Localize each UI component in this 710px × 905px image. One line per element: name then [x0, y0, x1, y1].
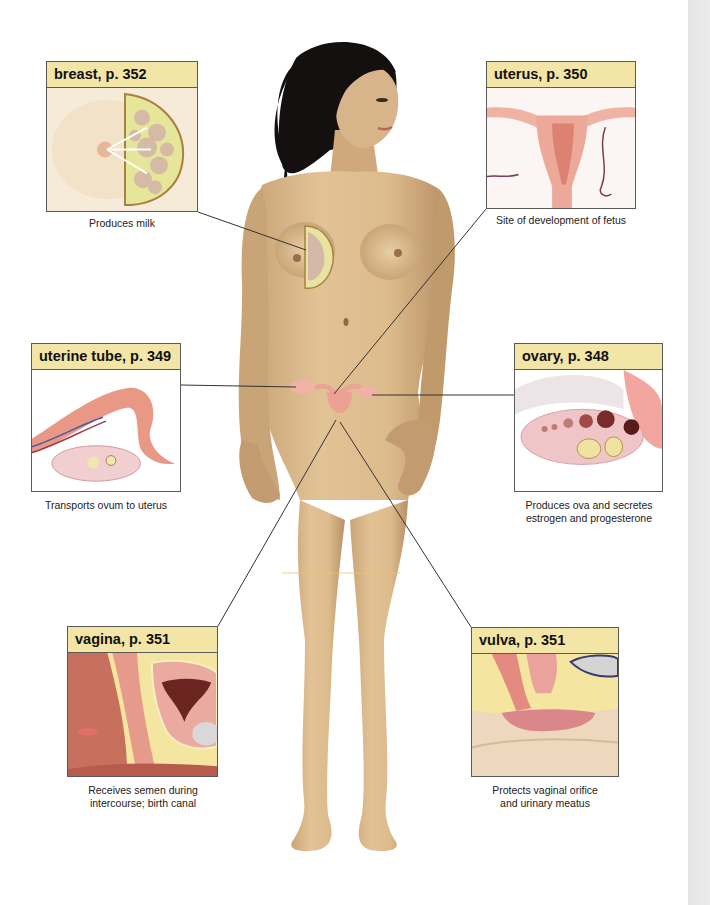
uterus-cross-section-image — [487, 88, 635, 208]
breast-caption-line-1: Produces milk — [46, 217, 198, 230]
uterus-callout: uterus, p. 350 — [486, 61, 636, 209]
breast-callout: breast, p. 352 — [46, 61, 198, 212]
uterine-tube-label: uterine tube, p. 349 — [32, 344, 180, 370]
uterine-tube-image — [32, 370, 180, 491]
vagina-label: vagina, p. 351 — [68, 627, 217, 653]
breast-cross-section-image — [47, 88, 197, 211]
uterine-tube-caption: Transports ovum to uterus — [26, 499, 186, 512]
vulva-cross-section-image — [472, 654, 618, 776]
ovary-caption-line-2: estrogen and progesterone — [500, 512, 678, 525]
ovary-callout: ovary, p. 348 — [514, 343, 663, 492]
vulva-caption-line-2: and urinary meatus — [460, 797, 630, 810]
ovary-caption-line-1: Produces ova and secretes — [500, 499, 678, 512]
uterine-tube-caption-line-1: Transports ovum to uterus — [26, 499, 186, 512]
vagina-caption-line-1: Receives semen during — [57, 784, 229, 797]
uterine-tube-callout: uterine tube, p. 349 — [31, 343, 181, 492]
vagina-caption-line-2: intercourse; birth canal — [57, 797, 229, 810]
vulva-label: vulva, p. 351 — [472, 628, 618, 654]
vagina-caption: Receives semen during intercourse; birth… — [57, 784, 229, 810]
vagina-callout: vagina, p. 351 — [67, 626, 218, 777]
vagina-cross-section-image — [68, 653, 217, 776]
breast-caption: Produces milk — [46, 217, 198, 230]
ovary-cross-section-image — [515, 370, 662, 491]
breast-label: breast, p. 352 — [47, 62, 197, 88]
vulva-callout: vulva, p. 351 — [471, 627, 619, 777]
uterus-label: uterus, p. 350 — [487, 62, 635, 88]
vulva-caption: Protects vaginal orifice and urinary mea… — [460, 784, 630, 810]
uterus-caption-line-1: Site of development of fetus — [475, 214, 647, 227]
ovary-label: ovary, p. 348 — [515, 344, 662, 370]
vulva-caption-line-1: Protects vaginal orifice — [460, 784, 630, 797]
uterus-caption: Site of development of fetus — [475, 214, 647, 227]
ovary-caption: Produces ova and secretes estrogen and p… — [500, 499, 678, 525]
